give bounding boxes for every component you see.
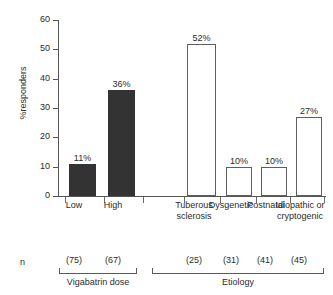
y-axis-line [58, 20, 59, 197]
n-value-idiopathic-or-cryptogenic: (45) [266, 255, 332, 265]
group-bracket-vigabatrin-dose [59, 268, 137, 274]
group-label-vigabatrin-dose: Vigabatrin dose [44, 277, 152, 287]
y-axis-tick-label: 40 [40, 73, 50, 83]
y-axis-tick: 60 [53, 20, 58, 21]
y-axis-tick: 50 [53, 49, 58, 50]
bar-value-label: 27% [300, 106, 318, 116]
y-axis-tick: 40 [53, 79, 58, 80]
bar-high[interactable]: 36% [108, 90, 135, 196]
group-bracket-etiology [152, 268, 324, 274]
y-axis-tick: 20 [53, 137, 58, 138]
n-row-label: n [20, 257, 25, 267]
x-label-line: sclerosis [156, 211, 232, 222]
y-axis-tick-label: 10 [40, 161, 50, 171]
x-label-line: High [87, 200, 139, 211]
bar-postnatal[interactable]: 10% [261, 167, 287, 196]
bar-chart-figure: %responders 0 10 20 30 40 50 60 [0, 0, 333, 295]
bar-value-label: 11% [74, 153, 91, 163]
bar-dysgenetic[interactable]: 10% [226, 167, 252, 196]
x-label-high: High [87, 200, 139, 211]
x-axis-tick [143, 197, 144, 203]
y-axis-tick-label: 50 [40, 43, 50, 53]
y-axis-tick-label: 30 [40, 102, 50, 112]
x-axis-line [58, 196, 326, 197]
bar-value-label: 36% [112, 79, 130, 89]
y-axis-tick-label: 60 [40, 14, 50, 24]
plot-area: 0 10 20 30 40 50 60 11% [58, 20, 326, 197]
x-label-line: Idiopathic or [268, 200, 332, 211]
bar-tuberous-sclerosis[interactable]: 52% [187, 44, 216, 197]
y-axis-tick: 30 [53, 108, 58, 109]
y-axis-title: %responders [18, 48, 28, 138]
bar-idiopathic-or-cryptogenic[interactable]: 27% [296, 117, 322, 196]
bar-value-label: 10% [230, 156, 248, 166]
y-axis-tick: 0 [53, 196, 58, 197]
y-axis-tick-label: 0 [45, 190, 50, 200]
bar-value-label: 10% [265, 156, 283, 166]
n-value-high: (67) [87, 255, 139, 265]
x-label-line: cryptogenic [268, 211, 332, 222]
y-axis-tick-label: 20 [40, 131, 50, 141]
group-label-etiology: Etiology [152, 277, 324, 287]
bar-low[interactable]: 11% [69, 164, 96, 196]
y-axis-tick: 10 [53, 167, 58, 168]
x-label-idiopathic-or-cryptogenic: Idiopathic or cryptogenic [268, 200, 332, 221]
bar-value-label: 52% [192, 33, 210, 43]
